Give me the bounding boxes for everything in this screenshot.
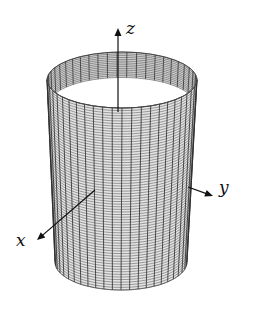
z-axis-arrowhead-icon [115,28,122,36]
z-axis-label: z [125,18,136,38]
y-axis-label: y [218,177,229,197]
y-axis-arrowhead-icon [204,190,213,197]
y-axis: y [188,177,229,197]
cylinder-outer-wall [47,80,197,290]
elliptic-cylinder-figure: z y x [0,0,266,329]
cylinder-surface [47,52,197,290]
x-axis-label: x [16,230,26,250]
